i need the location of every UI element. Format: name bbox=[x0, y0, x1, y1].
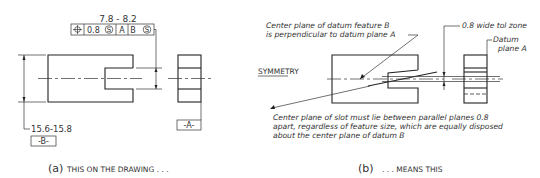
overall-dimension: 15.6-15.8 bbox=[31, 124, 72, 134]
note-datum-a-line2: plane A bbox=[497, 44, 527, 53]
part-side-view bbox=[168, 55, 214, 120]
note-slot-line3: about the center plane of datum B bbox=[273, 131, 405, 140]
panel-b: Center plane of datum feature B is perpe… bbox=[258, 21, 527, 175]
slot-width-dimension: 7.8 - 8.2 bbox=[99, 14, 137, 24]
gdt-symmetry-diagram: 7.8 - 8.2 0.8 S A B S bbox=[0, 0, 540, 178]
note-datum-b-line1: Center plane of datum feature B bbox=[266, 21, 389, 30]
caption-a-text: THIS ON THE DRAWING . . . bbox=[66, 165, 169, 174]
symmetry-label: SYMMETRY bbox=[258, 67, 299, 76]
note-tol-zone: 0.8 wide tol zone bbox=[462, 21, 527, 30]
interpretation-front-view bbox=[327, 55, 500, 103]
caption-b-text: . . . MEANS THIS bbox=[382, 165, 443, 174]
note-datum-a-line1: Datum bbox=[493, 35, 519, 44]
fcf-datum-a: A bbox=[119, 26, 125, 35]
svg-text:S: S bbox=[145, 26, 150, 34]
datum-a-label: -A- bbox=[184, 121, 195, 130]
datum-b-label: -B- bbox=[38, 137, 49, 146]
note-slot-line2: apart, regardless of feature size, which… bbox=[273, 122, 503, 131]
caption-a-letter: (a) bbox=[48, 162, 63, 175]
fcf-tolerance: 0.8 bbox=[87, 26, 100, 35]
caption-b-letter: (b) bbox=[358, 162, 374, 175]
panel-a: 7.8 - 8.2 0.8 S A B S bbox=[18, 14, 214, 175]
note-datum-b-line2: is perpendicular to datum plane A bbox=[266, 30, 395, 39]
position-symbol-icon bbox=[73, 25, 82, 34]
part-front-view bbox=[38, 55, 142, 102]
interpretation-side-view bbox=[452, 55, 503, 103]
svg-text:S: S bbox=[107, 26, 112, 34]
feature-control-frame: 0.8 S A B S bbox=[71, 24, 156, 68]
note-slot-line1: Center plane of slot must lie between pa… bbox=[273, 113, 489, 122]
fcf-datum-b: B bbox=[130, 26, 136, 35]
